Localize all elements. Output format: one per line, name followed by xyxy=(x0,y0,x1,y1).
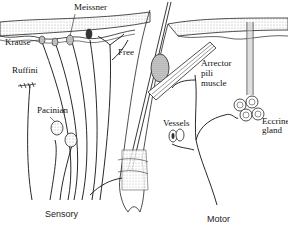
label-arrector: Arrector xyxy=(201,59,231,68)
label-gland: gland xyxy=(262,126,282,135)
sensory-nerves xyxy=(28,34,128,200)
label-vessels: Vessels xyxy=(163,119,190,128)
label-free: Free xyxy=(118,48,134,57)
label-meissner: Meissner xyxy=(74,3,107,12)
epidermis-right xyxy=(168,18,288,39)
label-krause: Krause xyxy=(5,38,31,47)
label-motor: Motor xyxy=(207,215,230,224)
vessels xyxy=(169,129,184,142)
hair-follicle xyxy=(118,2,171,212)
ruffini-ending xyxy=(18,82,36,88)
label-sensory: Sensory xyxy=(45,210,78,219)
skin-innervation-diagram: Meissner Krause Free Ruffini Pacinian Ar… xyxy=(0,0,288,225)
label-pili: pili xyxy=(201,69,213,78)
label-muscle: muscle xyxy=(201,79,227,88)
pacinian-corpuscles xyxy=(51,121,77,147)
label-pacinian: Pacinian xyxy=(37,106,68,115)
label-ruffini: Ruffini xyxy=(12,66,38,75)
